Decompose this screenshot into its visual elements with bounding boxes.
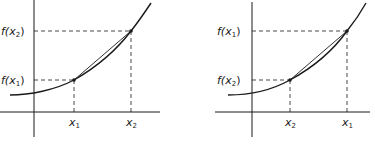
x-label-left: x2 — [284, 116, 296, 130]
point-x2 — [288, 78, 292, 82]
x-label-left: x1 — [68, 116, 80, 130]
y-label-lower: f(x1) — [1, 74, 24, 88]
point-x1 — [72, 78, 76, 82]
secant-chord — [290, 31, 347, 80]
y-label-upper: f(x1) — [217, 25, 240, 39]
x-label-right: x1 — [341, 116, 353, 130]
point-x1 — [345, 29, 349, 33]
convex-curve — [228, 3, 366, 95]
convex-curve — [10, 3, 151, 95]
convex-function-diagram: f(x2) f(x1) x1 x2 f(x1) f(x2) x2 x1 — [0, 0, 375, 144]
y-label-lower: f(x2) — [217, 74, 240, 88]
x-label-right: x2 — [125, 116, 137, 130]
y-label-upper: f(x2) — [1, 25, 24, 39]
point-x2 — [129, 29, 133, 33]
secant-chord — [74, 31, 131, 80]
left-panel: f(x2) f(x1) x1 x2 — [0, 0, 160, 137]
right-panel: f(x1) f(x2) x2 x1 — [215, 2, 370, 137]
